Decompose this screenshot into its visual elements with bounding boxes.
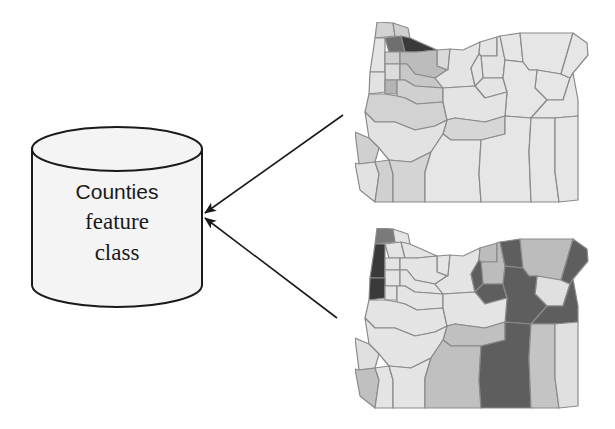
- county-malheur: [555, 322, 578, 408]
- county-benton: [385, 80, 397, 94]
- county-clatsop: [375, 228, 395, 244]
- county-lincoln: [369, 72, 385, 94]
- oregon-counties-map-bottom: [355, 228, 591, 412]
- county-sherman: [479, 37, 497, 56]
- county-tillamook: [370, 38, 385, 72]
- county-tillamook: [370, 244, 385, 278]
- database-label-line-1: Counties: [32, 180, 202, 204]
- oregon-counties-map-top: [355, 22, 591, 206]
- database-label-line-2: feature: [32, 209, 202, 235]
- county-yamhill: [385, 52, 400, 64]
- county-yamhill: [385, 258, 400, 270]
- county-lincoln: [369, 278, 385, 300]
- county-polk: [385, 270, 400, 286]
- arrow-from-bottom-map: [205, 218, 337, 318]
- database-label-line-3: class: [32, 240, 202, 266]
- county-malheur: [555, 116, 578, 202]
- county-sherman: [479, 243, 497, 262]
- county-multnomah: [401, 242, 437, 258]
- arrow-from-top-map: [205, 115, 343, 213]
- county-clatsop: [375, 22, 395, 38]
- county-multnomah: [401, 36, 437, 52]
- county-benton: [385, 286, 397, 300]
- county-polk: [385, 64, 400, 80]
